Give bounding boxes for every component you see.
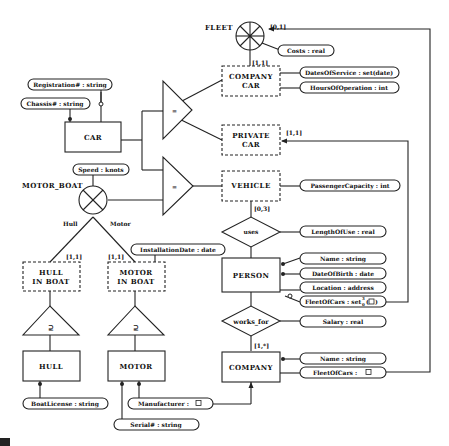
attr-passenger-capacity[interactable]: PassengerCapacity : int — [300, 180, 400, 191]
role-motor: Motor — [110, 220, 131, 227]
entity-motor-boat[interactable] — [79, 186, 107, 214]
svg-text:COMPANY: COMPANY — [229, 363, 273, 372]
reference-box-icon — [366, 370, 371, 375]
svg-text:⊇: ⊇ — [48, 323, 54, 332]
entity-company[interactable]: COMPANY — [222, 352, 280, 382]
attr-registration[interactable]: Registration# : string — [28, 79, 112, 90]
attr-costs[interactable]: Costs : real — [278, 45, 334, 56]
attr-person-name[interactable]: Name : string — [300, 253, 386, 264]
svg-text:Speed : knots: Speed : knots — [78, 166, 124, 174]
reference-box-icon — [196, 401, 201, 406]
svg-text:3: 3 — [362, 296, 365, 301]
svg-text:FleetOfCars : set: FleetOfCars : set — [305, 298, 362, 305]
svg-text:FleetOfCars :: FleetOfCars : — [313, 369, 357, 376]
svg-text:Manufacturer :: Manufacturer : — [138, 400, 189, 407]
entity-hull-in-boat[interactable]: HULL IN BOAT — [23, 262, 80, 291]
svg-text:Salary : real: Salary : real — [323, 318, 364, 326]
svg-text:Name : string: Name : string — [320, 355, 367, 363]
svg-text:Serial# : string: Serial# : string — [130, 421, 182, 429]
svg-text:IN BOAT: IN BOAT — [117, 277, 155, 286]
caption-fragment — [0, 438, 10, 446]
attr-hours-of-operation[interactable]: HoursOfOperation : int — [300, 82, 399, 93]
svg-text:MOTOR: MOTOR — [120, 268, 153, 277]
svg-text:VEHICLE: VEHICLE — [230, 181, 270, 190]
svg-text:COMPANY: COMPANY — [229, 72, 273, 81]
fleet-label: FLEET — [205, 23, 233, 32]
er-diagram: FLEET [0,1] Costs : real COMPANY CAR [1,… — [0, 0, 449, 446]
svg-text:uses: uses — [244, 228, 260, 235]
entity-motor[interactable]: MOTOR — [108, 351, 165, 381]
entity-vehicle[interactable]: VEHICLE — [222, 171, 280, 201]
attr-salary[interactable]: Salary : real — [300, 316, 386, 327]
attr-company-fleet-of-cars[interactable]: FleetOfCars : — [300, 367, 386, 378]
entity-car[interactable]: CAR — [65, 122, 121, 152]
svg-text:0: 0 — [362, 302, 365, 307]
svg-text:Location : address: Location : address — [312, 284, 374, 291]
card-fleet: [0,1] — [270, 23, 286, 30]
card-company-car: [1,1] — [252, 59, 268, 66]
attr-speed[interactable]: Speed : knots — [73, 164, 129, 175]
svg-text:HoursOfOperation : int: HoursOfOperation : int — [310, 84, 388, 92]
attr-boat-license[interactable]: BoatLicense : string — [23, 398, 108, 409]
svg-text:Name : string: Name : string — [320, 255, 367, 263]
attr-company-name[interactable]: Name : string — [300, 353, 386, 364]
svg-text:(: ( — [366, 298, 369, 305]
svg-text:MOTOR: MOTOR — [120, 362, 153, 371]
entity-company-car[interactable]: COMPANY CAR — [222, 66, 280, 96]
svg-text:InstallationDate : date: InstallationDate : date — [140, 246, 216, 253]
subset-motor: ⊇ — [108, 306, 164, 335]
relationship-works-for[interactable]: works_for — [222, 306, 280, 336]
attr-date-of-birth[interactable]: DateOfBirth : date — [300, 268, 386, 279]
svg-text:works_for: works_for — [232, 318, 269, 326]
svg-text:BoatLicense : string: BoatLicense : string — [31, 400, 100, 408]
attr-manufacturer[interactable]: Manufacturer : — [128, 398, 213, 409]
entity-hull[interactable]: HULL — [23, 351, 80, 381]
entity-private-car[interactable]: PRIVATE CAR — [222, 125, 280, 155]
svg-text:IN BOAT: IN BOAT — [32, 277, 70, 286]
entity-person[interactable]: PERSON — [222, 258, 280, 292]
svg-text:PERSON: PERSON — [233, 271, 270, 280]
attr-person-fleet-of-cars[interactable]: FleetOfCars : set 3 0 ( ) — [300, 296, 386, 307]
relationship-uses[interactable]: uses — [222, 217, 280, 247]
svg-text:=: = — [172, 183, 177, 190]
card-private-car: [1,1] — [286, 129, 302, 136]
isa-vehicle: = — [163, 157, 193, 215]
attr-installation-date[interactable]: InstallationDate : date — [131, 244, 225, 255]
svg-text:PassengerCapacity : int: PassengerCapacity : int — [310, 182, 389, 190]
svg-text:CAR: CAR — [84, 133, 102, 142]
motor-boat-label: MOTOR_BOAT — [22, 181, 83, 190]
attr-length-of-use[interactable]: LengthOfUse : real — [300, 226, 386, 237]
entity-fleet[interactable]: FLEET — [205, 22, 264, 50]
entity-motor-in-boat[interactable]: MOTOR IN BOAT — [108, 262, 165, 291]
subset-hull: ⊇ — [23, 306, 79, 335]
reference-box-icon — [369, 299, 374, 304]
svg-text:CAR: CAR — [242, 81, 260, 90]
svg-text:DateOfBirth : date: DateOfBirth : date — [312, 270, 374, 277]
svg-text:Registration# : string: Registration# : string — [33, 81, 107, 89]
isa-car: = — [163, 81, 192, 139]
svg-text:PRIVATE: PRIVATE — [232, 131, 270, 140]
arrow-to-private-car-icon — [281, 139, 287, 144]
role-hull: Hull — [63, 220, 78, 227]
svg-text:Costs : real: Costs : real — [287, 47, 326, 54]
svg-text:⊇: ⊇ — [133, 323, 139, 332]
card-hull-in-boat: [1,1] — [66, 253, 82, 260]
attr-location[interactable]: Location : address — [300, 282, 386, 293]
svg-text:=: = — [172, 107, 177, 114]
card-vehicle-uses: [0,3] — [254, 205, 270, 212]
arrow-to-company-icon — [249, 382, 254, 388]
attr-serial[interactable]: Serial# : string — [114, 419, 199, 430]
svg-text:LengthOfUse : real: LengthOfUse : real — [311, 228, 375, 236]
svg-text:DatesOfService : set(date): DatesOfService : set(date) — [305, 69, 393, 76]
attr-dates-of-service[interactable]: DatesOfService : set(date) — [300, 67, 399, 78]
attr-chassis[interactable]: Chassis# : string — [21, 98, 90, 109]
svg-text:): ) — [375, 298, 378, 305]
svg-text:HULL: HULL — [39, 268, 63, 277]
card-motor-in-boat: [1,1] — [108, 253, 124, 260]
svg-text:HULL: HULL — [39, 362, 63, 371]
svg-text:Chassis# : string: Chassis# : string — [26, 100, 84, 108]
card-company-works-for: [1,*] — [254, 342, 269, 349]
svg-text:CAR: CAR — [242, 140, 260, 149]
